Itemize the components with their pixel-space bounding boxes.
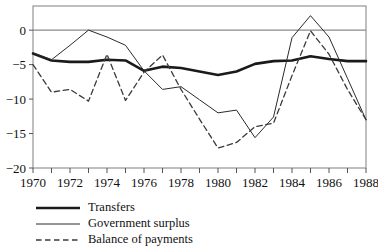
y-tick-label: −10 <box>6 92 26 107</box>
x-tick-label: 1984 <box>279 175 306 190</box>
legend-label: Balance of payments <box>88 232 193 246</box>
x-tick-label: 1972 <box>57 175 83 190</box>
y-tick-label: −20 <box>6 161 26 176</box>
legend-label: Transfers <box>88 200 135 214</box>
y-tick-label: −5 <box>12 57 26 72</box>
chart-legend: TransfersGovernment surplusBalance of pa… <box>36 200 193 246</box>
x-tick-label: 1982 <box>242 175 268 190</box>
x-tick-label: 1980 <box>205 175 231 190</box>
line-chart: 0−5−10−15−20 197019721974197619781980198… <box>0 0 378 252</box>
series-line-transfers <box>33 54 366 75</box>
y-axis-tick-labels: 0−5−10−15−20 <box>6 23 26 176</box>
data-series-group <box>33 16 366 148</box>
x-tick-label: 1974 <box>94 175 121 190</box>
x-tick-label: 1970 <box>20 175 46 190</box>
x-tick-label: 1976 <box>131 175 158 190</box>
legend-label: Government surplus <box>88 216 190 230</box>
x-tick-label: 1978 <box>168 175 194 190</box>
y-tick-label: 0 <box>20 23 27 38</box>
y-tick-label: −15 <box>6 126 26 141</box>
x-tick-label: 1988 <box>353 175 378 190</box>
series-line-balance-of-payments <box>33 31 366 148</box>
x-axis-ticks <box>33 168 366 173</box>
x-tick-label: 1986 <box>316 175 343 190</box>
y-axis-ticks <box>29 30 33 168</box>
chart-container: 0−5−10−15−20 197019721974197619781980198… <box>0 0 378 252</box>
x-axis-tick-labels: 1970197219741976197819801982198419861988 <box>20 175 378 190</box>
